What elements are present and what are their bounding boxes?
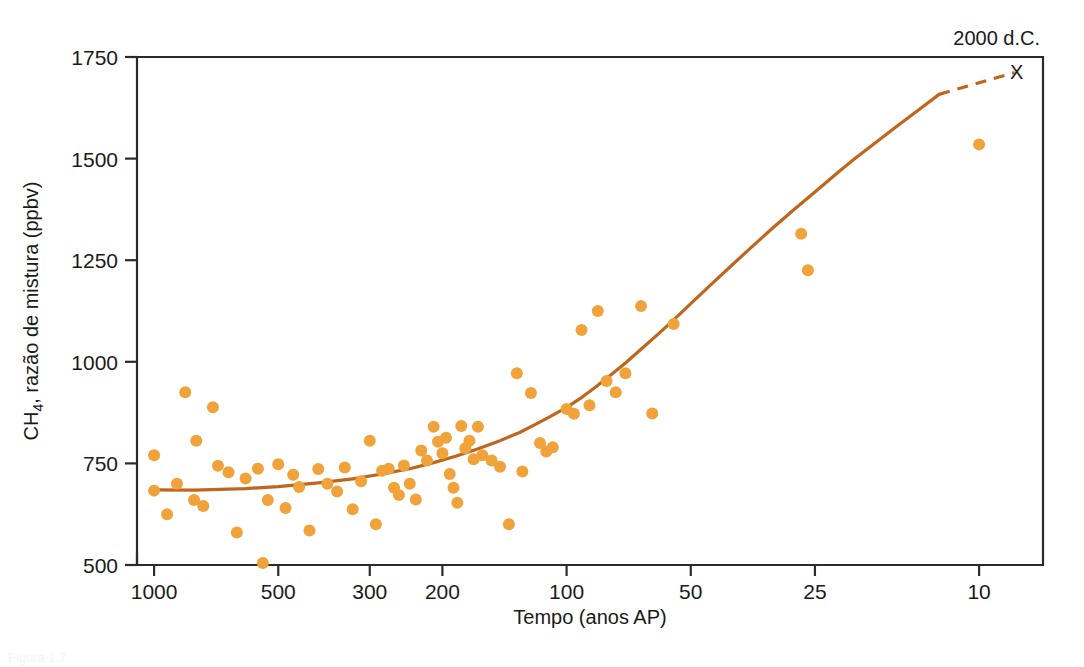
data-point — [610, 386, 622, 398]
data-point — [451, 497, 463, 509]
data-point — [635, 300, 647, 312]
annotations: 2000 d.C.X — [953, 27, 1040, 83]
data-point — [240, 472, 252, 484]
x-tick-label: 500 — [261, 580, 296, 603]
data-point — [223, 466, 235, 478]
data-point — [190, 435, 202, 447]
data-point — [525, 387, 537, 399]
data-point — [583, 399, 595, 411]
data-point — [287, 469, 299, 481]
data-point — [231, 526, 243, 538]
data-point — [383, 463, 395, 475]
data-point — [455, 420, 467, 432]
data-point — [312, 463, 324, 475]
data-points — [148, 138, 985, 569]
data-point — [393, 489, 405, 501]
trend-line-dashed-extension — [939, 72, 1015, 94]
data-point — [436, 447, 448, 459]
data-point — [148, 449, 160, 461]
data-point — [280, 502, 292, 514]
data-point — [444, 468, 456, 480]
data-point — [447, 482, 459, 494]
data-point — [494, 461, 506, 473]
y-tick-label: 750 — [83, 452, 118, 475]
data-point — [410, 494, 422, 506]
y-tick-label: 1750 — [71, 46, 118, 69]
y-tick-label: 1500 — [71, 148, 118, 171]
data-point — [601, 375, 613, 387]
data-point — [440, 432, 452, 444]
figure-caption-partial: Figura 1.7 — [8, 650, 67, 665]
x-tick-label: 25 — [803, 580, 826, 603]
data-point — [370, 518, 382, 530]
x-tick-label: 100 — [549, 580, 584, 603]
data-point — [576, 324, 588, 336]
data-point — [516, 466, 528, 478]
data-point — [171, 478, 183, 490]
data-point — [398, 459, 410, 471]
data-point — [511, 367, 523, 379]
ch4-scatter-chart: 1000500300200100502510500750100012501500… — [0, 0, 1084, 667]
x-tick-label: 10 — [967, 580, 990, 603]
data-point — [472, 421, 484, 433]
y-tick-label: 500 — [83, 554, 118, 577]
x-marker: X — [1010, 61, 1023, 83]
trend-line — [154, 72, 1015, 490]
figure-container: 1000500300200100502510500750100012501500… — [0, 0, 1084, 667]
data-point — [463, 435, 475, 447]
plot-frame — [137, 57, 1043, 565]
data-point — [646, 407, 658, 419]
data-point — [355, 475, 367, 487]
data-point — [802, 264, 814, 276]
data-point — [421, 455, 433, 467]
x-tick-label: 50 — [679, 580, 702, 603]
data-point — [503, 518, 515, 530]
axes: 1000500300200100502510500750100012501500… — [71, 46, 1043, 603]
data-point — [415, 444, 427, 456]
data-point — [161, 508, 173, 520]
x-tick-label: 200 — [425, 580, 460, 603]
x-axis-title: Tempo (anos AP) — [513, 606, 666, 628]
data-point — [619, 367, 631, 379]
data-point — [212, 460, 224, 472]
data-point — [668, 318, 680, 330]
data-point — [262, 494, 274, 506]
data-point — [428, 421, 440, 433]
data-point — [148, 485, 160, 497]
data-point — [331, 485, 343, 497]
data-point — [404, 478, 416, 490]
x-tick-label: 1000 — [131, 580, 178, 603]
x-tick-label: 300 — [352, 580, 387, 603]
data-point — [795, 228, 807, 240]
data-point — [568, 408, 580, 420]
y-tick-label: 1250 — [71, 249, 118, 272]
data-point — [257, 557, 269, 569]
data-point — [339, 461, 351, 473]
data-point — [347, 503, 359, 515]
data-point — [592, 305, 604, 317]
y-axis-title: CH4, razão de mistura (ppbv) — [20, 181, 46, 440]
y-tick-label: 1000 — [71, 351, 118, 374]
data-point — [179, 386, 191, 398]
data-point — [303, 524, 315, 536]
year-2000-label: 2000 d.C. — [953, 27, 1040, 49]
data-point — [293, 481, 305, 493]
data-point — [973, 138, 985, 150]
data-point — [252, 463, 264, 475]
data-point — [321, 478, 333, 490]
data-point — [272, 458, 284, 470]
data-point — [364, 435, 376, 447]
data-point — [197, 500, 209, 512]
data-point — [547, 441, 559, 453]
trend-line-solid — [154, 94, 939, 490]
data-point — [207, 401, 219, 413]
